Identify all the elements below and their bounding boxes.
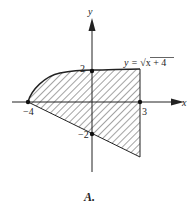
hatched-region bbox=[28, 69, 140, 157]
y-axis-arrow-icon bbox=[89, 18, 96, 31]
point-0-2 bbox=[90, 69, 94, 73]
x-axis-label: x bbox=[181, 97, 187, 108]
tick-y-neg2: −2 bbox=[78, 129, 89, 140]
point-3-0 bbox=[138, 100, 142, 104]
svg-text:y = √x + 4: y = √x + 4 bbox=[123, 57, 166, 68]
y-axis-label: y bbox=[87, 6, 93, 17]
radicand: x + 4 bbox=[146, 57, 167, 68]
tick-y-2: 2 bbox=[80, 63, 85, 74]
region-diagram: y x −4 3 2 −2 y = √x + 4 A. bbox=[0, 0, 194, 210]
tick-x-3: 3 bbox=[142, 106, 147, 117]
figure-caption: A. bbox=[83, 190, 95, 204]
curve-label: y = √x + 4 bbox=[123, 57, 174, 68]
point-neg4-0 bbox=[26, 100, 30, 104]
curve-label-lhs: y = bbox=[123, 57, 140, 68]
tick-x-neg4: −4 bbox=[23, 106, 34, 117]
point-0-neg2 bbox=[90, 132, 94, 136]
